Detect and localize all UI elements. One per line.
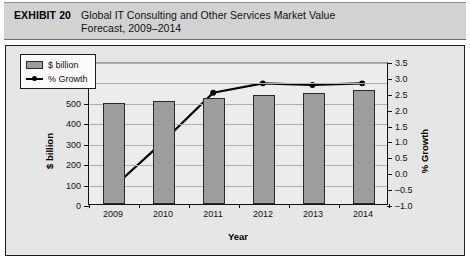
- gridline: [89, 145, 387, 146]
- plot-area: 0100200300400500600700–1.0–0.50.00.51.01…: [88, 62, 388, 205]
- y-axis-right-tick: [387, 127, 392, 128]
- y-axis-right-tick: [387, 158, 392, 159]
- y-axis-right-tick: [387, 174, 392, 175]
- y-axis-left-tick: [84, 145, 89, 146]
- x-axis-tick-label: 2011: [203, 209, 222, 219]
- legend-line-marker-icon: [26, 75, 43, 83]
- y-axis-right-tick-label: 0.0: [395, 169, 408, 179]
- x-axis-title: Year: [88, 231, 388, 242]
- y-axis-right-tick-label: 2.0: [395, 106, 408, 116]
- exhibit-header: EXHIBIT 20 Global IT Consulting and Othe…: [4, 2, 466, 40]
- bar-2013: [303, 93, 325, 204]
- y-axis-right-title: % Growth: [418, 128, 429, 172]
- y-axis-left-tick-label: 200: [66, 160, 81, 170]
- y-axis-left-tick-label: 400: [66, 119, 81, 129]
- growth-point-2011: [210, 90, 216, 96]
- legend-item-label: $ billion: [48, 60, 79, 70]
- x-axis-tick-label: 2013: [303, 209, 323, 219]
- x-axis-tick: [189, 204, 190, 208]
- y-axis-right-tick: [387, 190, 392, 191]
- bar-2009: [103, 103, 125, 204]
- exhibit-title: Global IT Consulting and Other Services …: [71, 3, 341, 35]
- legend-item-bar: $ billion: [26, 59, 88, 70]
- x-axis-tick-label: 2010: [153, 209, 173, 219]
- y-axis-left-tick-label: 100: [66, 181, 81, 191]
- y-axis-right-tick-label: 1.5: [395, 122, 408, 132]
- y-axis-right-tick: [387, 142, 392, 143]
- y-axis-left-tick-label: 0: [76, 201, 81, 211]
- gridline: [89, 186, 387, 187]
- x-axis-tick: [139, 204, 140, 208]
- exhibit-number: EXHIBIT 20: [4, 3, 71, 21]
- y-axis-left-tick: [84, 124, 89, 125]
- gridline: [89, 124, 387, 125]
- y-axis-right-tick: [387, 111, 392, 112]
- bar-2014: [353, 90, 375, 204]
- gridline: [89, 104, 387, 105]
- bar-2011: [203, 98, 225, 204]
- chart-panel: $ billion % Growth Year 0100200300400500…: [5, 45, 465, 256]
- y-axis-left-tick-label: 300: [66, 140, 81, 150]
- y-axis-right-tick: [387, 79, 392, 80]
- y-axis-right-tick: [387, 95, 392, 96]
- y-axis-right-tick-label: 1.0: [395, 137, 408, 147]
- bar-2012: [253, 95, 275, 204]
- x-axis-tick: [339, 204, 340, 208]
- x-axis-tick-label: 2009: [103, 209, 123, 219]
- gridline: [89, 83, 387, 84]
- exhibit-title-line-1: Global IT Consulting and Other Services …: [81, 9, 335, 21]
- legend-item-line: % Growth: [26, 73, 88, 84]
- exhibit-title-line-2: Forecast, 2009–2014: [81, 22, 335, 35]
- x-axis-tick: [389, 204, 390, 208]
- y-axis-right-tick: [387, 63, 392, 64]
- x-axis-tick: [239, 204, 240, 208]
- y-axis-right-tick-label: 3.5: [395, 58, 408, 68]
- y-axis-right-tick-label: 0.5: [395, 153, 408, 163]
- y-axis-right-tick-label: –1.0: [395, 201, 413, 211]
- legend-item-label: % Growth: [48, 74, 88, 84]
- chart-legend: $ billion % Growth: [20, 54, 96, 89]
- y-axis-left-tick-label: 500: [66, 99, 81, 109]
- y-axis-left-tick: [84, 165, 89, 166]
- x-axis-tick-label: 2014: [353, 209, 373, 219]
- y-axis-left-tick: [84, 104, 89, 105]
- gridline: [89, 63, 387, 64]
- legend-bar-swatch-icon: [26, 61, 43, 69]
- exhibit-figure: EXHIBIT 20 Global IT Consulting and Othe…: [0, 0, 470, 262]
- gridline: [89, 165, 387, 166]
- y-axis-right-tick-label: 2.5: [395, 90, 408, 100]
- y-axis-left-title: $ billion: [44, 133, 55, 169]
- y-axis-left-tick: [84, 186, 89, 187]
- y-axis-right-tick-label: 3.0: [395, 74, 408, 84]
- x-axis-tick-label: 2012: [253, 209, 273, 219]
- x-axis-tick: [89, 204, 90, 208]
- x-axis-tick: [289, 204, 290, 208]
- bar-2010: [153, 101, 175, 204]
- y-axis-right-tick-label: –0.5: [395, 185, 413, 195]
